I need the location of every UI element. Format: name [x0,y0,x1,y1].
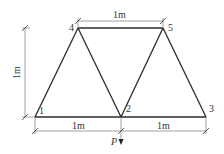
load-p: P [110,134,124,147]
member-5-3 [163,28,206,117]
member-4-2 [78,28,121,117]
member-1-4 [35,28,78,117]
bottom-left-dimension-label: 1m [72,120,85,131]
top-dimension: 1m [75,9,166,28]
top-dimension-label: 1m [113,9,126,20]
truss-diagram: 1m 1m 1m 1m 1 2 3 4 5 P [0,0,224,154]
load-arrow-icon [119,139,124,145]
node-label-4: 4 [69,22,74,33]
node-label-2: 2 [126,103,131,114]
node-label-1: 1 [39,105,44,116]
bottom-right-dimension-label: 1m [157,120,170,131]
left-dimension: 1m [11,25,35,120]
load-label: P [110,136,117,147]
left-dimension-label: 1m [11,66,22,79]
bottom-dimension: 1m 1m [32,117,209,134]
node-label-5: 5 [168,22,173,33]
truss-members [35,28,206,117]
node-label-3: 3 [209,103,214,114]
node-labels: 1 2 3 4 5 [39,22,214,116]
